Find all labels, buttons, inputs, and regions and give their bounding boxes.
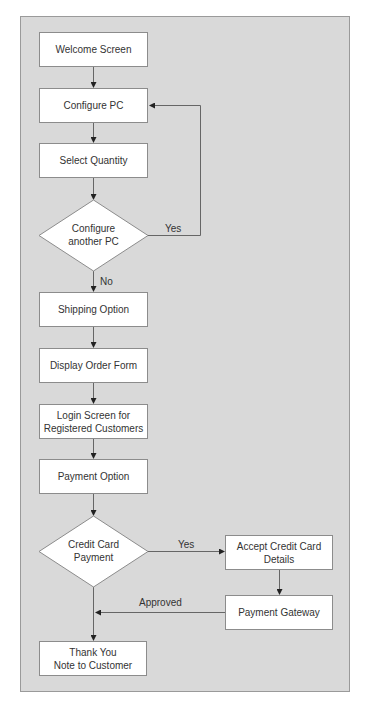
decision-label-configure-another: Configure another PC [49,220,138,250]
node-label: Shipping Option [58,303,129,316]
node-label: Payment Option [58,470,130,483]
decision-label-line: another PC [68,235,119,248]
node-label: Thank You [69,646,116,659]
node-payment-gateway: Payment Gateway [225,595,333,630]
node-configure-pc: Configure PC [39,88,148,123]
node-label: Accept Credit Card [237,540,321,553]
node-label: Select Quantity [60,154,128,167]
node-label: Welcome Screen [56,43,132,56]
node-label: Details [264,553,295,566]
decision-label-line: Payment [74,551,113,564]
edge-label-approved: Approved [139,597,182,609]
node-login-screen: Login Screen for Registered Customers [39,404,148,439]
node-label: Payment Gateway [238,606,320,619]
decision-label-line: Configure [72,222,115,235]
edge-label-no: No [100,276,113,288]
node-label: Display Order Form [50,359,137,372]
node-select-quantity: Select Quantity [39,143,148,178]
node-shipping-option: Shipping Option [39,292,148,327]
edge-label-yes-loop: Yes [165,223,181,235]
edge-label-credit-yes: Yes [178,539,194,551]
decision-label-line: Credit Card [68,538,119,551]
node-label: Note to Customer [54,659,132,672]
node-label: Configure PC [63,99,123,112]
node-thank-you: Thank You Note to Customer [39,641,147,676]
node-welcome-screen: Welcome Screen [39,32,148,67]
node-display-order-form: Display Order Form [39,348,148,383]
node-label: Login Screen for [57,409,130,422]
node-label: Registered Customers [44,422,143,435]
decision-label-credit-card: Credit Card Payment [49,536,138,566]
node-payment-option: Payment Option [39,459,148,494]
node-accept-credit-card: Accept Credit Card Details [225,535,333,570]
